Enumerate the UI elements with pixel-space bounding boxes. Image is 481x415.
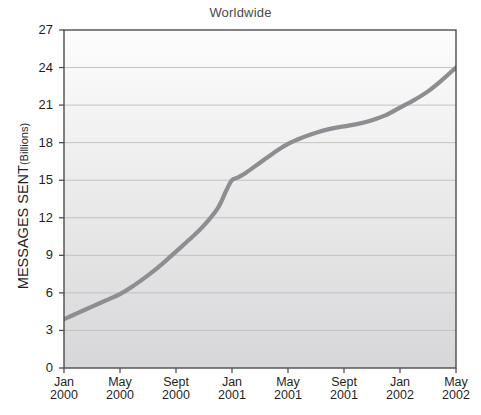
y-tick-label: 0 — [19, 360, 53, 375]
chart-container: Worldwide MESSAGES SENT(Billions) 036912… — [0, 0, 481, 415]
y-tick-label: 21 — [19, 97, 53, 112]
y-tick-label: 3 — [19, 322, 53, 337]
x-axis-ticks — [64, 368, 456, 373]
y-tick-label: 12 — [19, 210, 53, 225]
x-tick-label: May2002 — [421, 376, 481, 402]
y-tick-label: 24 — [19, 60, 53, 75]
plot-background — [64, 30, 456, 368]
plot-area — [0, 0, 481, 415]
y-tick-label: 18 — [19, 135, 53, 150]
y-tick-label: 9 — [19, 247, 53, 262]
y-tick-label: 27 — [19, 22, 53, 37]
y-tick-label: 15 — [19, 172, 53, 187]
y-axis-ticks — [59, 30, 64, 368]
x-tick-year: 2002 — [421, 389, 481, 402]
y-tick-label: 6 — [19, 285, 53, 300]
